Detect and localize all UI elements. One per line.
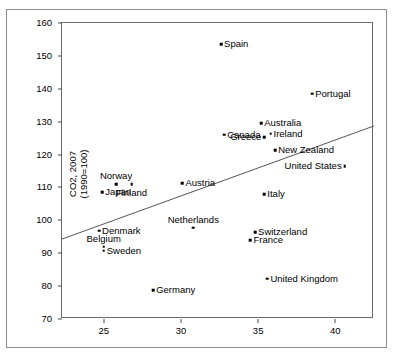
y-tick-mark bbox=[58, 55, 62, 56]
x-tick-label: 40 bbox=[330, 326, 341, 336]
data-point-label: Austria bbox=[185, 178, 215, 188]
data-point[interactable] bbox=[101, 191, 104, 194]
data-point-label: Ireland bbox=[274, 129, 303, 139]
data-point[interactable] bbox=[220, 43, 223, 46]
data-point-label: France bbox=[253, 235, 283, 245]
scatter-chart-figure: SpainPortugalAustraliaCanadaIrelandGreec… bbox=[0, 0, 394, 358]
data-point-label: Italy bbox=[267, 189, 284, 199]
data-point[interactable] bbox=[102, 249, 105, 252]
data-point[interactable] bbox=[152, 289, 155, 292]
data-point-label: Sweden bbox=[107, 246, 141, 256]
y-tick-mark bbox=[58, 121, 62, 122]
data-point[interactable] bbox=[311, 92, 314, 95]
y-tick-label: 90 bbox=[41, 248, 52, 258]
data-point[interactable] bbox=[274, 149, 277, 152]
data-point[interactable] bbox=[266, 277, 269, 280]
y-tick-mark bbox=[58, 154, 62, 155]
x-tick-label: 25 bbox=[98, 326, 109, 336]
data-point[interactable] bbox=[263, 136, 266, 139]
y-tick-mark bbox=[58, 319, 62, 320]
y-tick-mark bbox=[58, 23, 62, 24]
y-tick-label: 130 bbox=[36, 117, 52, 127]
data-point[interactable] bbox=[249, 239, 252, 242]
y-tick-mark bbox=[58, 187, 62, 188]
y-tick-mark bbox=[58, 220, 62, 221]
y-tick-label: 110 bbox=[37, 182, 52, 192]
data-point[interactable] bbox=[130, 183, 133, 186]
data-point-label: Germany bbox=[156, 285, 195, 295]
data-point[interactable] bbox=[181, 182, 184, 185]
x-tick-label: 30 bbox=[176, 326, 187, 336]
data-point[interactable] bbox=[102, 245, 105, 248]
data-point[interactable] bbox=[260, 122, 263, 125]
y-tick-label: 100 bbox=[36, 215, 52, 225]
data-point[interactable] bbox=[343, 165, 346, 168]
data-point[interactable] bbox=[223, 134, 226, 137]
data-point[interactable] bbox=[115, 183, 118, 186]
x-tick-mark bbox=[103, 319, 104, 323]
data-point-label: Australia bbox=[264, 118, 301, 128]
data-point-label: United Kingdom bbox=[270, 274, 338, 284]
y-tick-label: 80 bbox=[41, 281, 52, 291]
data-point-label: Portugal bbox=[315, 89, 350, 99]
data-point-label: Netherlands bbox=[168, 215, 219, 225]
x-tick-mark bbox=[180, 319, 181, 323]
data-point-label: Norway bbox=[100, 171, 132, 181]
y-axis-title: CO2, 2007 (1990=100) bbox=[67, 114, 89, 234]
data-point-label: Greece bbox=[230, 132, 261, 142]
x-tick-mark bbox=[335, 319, 336, 323]
y-tick-label: 160 bbox=[36, 18, 52, 28]
data-point-label: New Zealand bbox=[278, 145, 334, 155]
data-point[interactable] bbox=[192, 226, 195, 229]
x-tick-label: 35 bbox=[253, 326, 264, 336]
y-tick-mark bbox=[58, 88, 62, 89]
y-tick-label: 140 bbox=[36, 84, 52, 94]
y-tick-mark bbox=[58, 286, 62, 287]
data-point-label: Belgium bbox=[87, 234, 121, 244]
data-point-label: Spain bbox=[224, 39, 248, 49]
x-tick-mark bbox=[258, 319, 259, 323]
data-point-label: United States bbox=[285, 161, 342, 171]
y-tick-label: 120 bbox=[36, 150, 52, 160]
data-point[interactable] bbox=[269, 133, 272, 136]
y-tick-label: 70 bbox=[41, 314, 52, 324]
y-tick-label: 150 bbox=[36, 51, 52, 61]
data-point[interactable] bbox=[263, 193, 266, 196]
data-point-label: Japan bbox=[105, 187, 131, 197]
y-tick-mark bbox=[58, 253, 62, 254]
plot-area: SpainPortugalAustraliaCanadaIrelandGreec… bbox=[61, 22, 373, 318]
